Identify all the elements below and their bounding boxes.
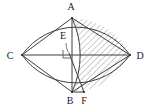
vertex-dot-C — [21, 54, 23, 56]
vertex-dot-B — [71, 91, 73, 93]
vertex-dot-D — [129, 54, 131, 56]
vertex-dot-F — [83, 91, 85, 93]
vertex-dot-A — [71, 17, 73, 19]
geometry-figure: A B C D E F — [0, 0, 152, 109]
label-F: F — [81, 95, 87, 106]
label-E: E — [60, 30, 66, 41]
figure-canvas: A B C D E F — [0, 0, 152, 109]
label-D: D — [136, 50, 143, 61]
label-B: B — [67, 95, 74, 106]
label-C: C — [7, 50, 14, 61]
label-A: A — [67, 1, 75, 12]
leader-line-E — [66, 43, 68, 52]
chord-CB — [22, 55, 72, 92]
